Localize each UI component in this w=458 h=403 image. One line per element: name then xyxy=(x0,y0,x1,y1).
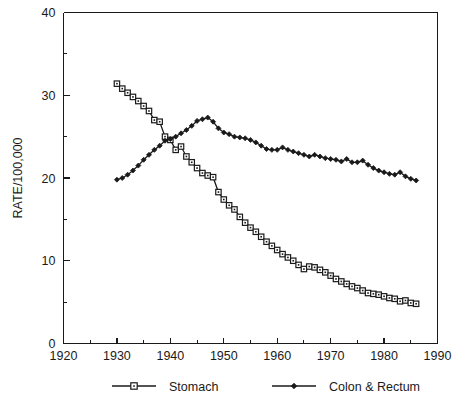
data-point-marker-open-square xyxy=(339,279,344,284)
data-point-marker-open-square xyxy=(323,270,328,275)
data-point-marker-open-square xyxy=(296,262,301,267)
data-point-marker-open-square xyxy=(189,160,194,165)
data-point-marker-open-square xyxy=(371,291,376,296)
data-point-marker-open-square xyxy=(408,300,413,305)
legend-label: Colon & Rectum xyxy=(329,380,420,394)
data-point-marker-open-square xyxy=(365,290,370,295)
y-tick-label: 0 xyxy=(49,337,56,351)
x-tick-label: 1950 xyxy=(210,349,238,363)
data-point-marker-open-square xyxy=(130,94,135,99)
data-point-marker-open-square xyxy=(131,383,137,389)
data-point-marker-open-square xyxy=(349,284,354,289)
data-point-marker-open-square xyxy=(120,86,125,91)
data-point-marker-open-square xyxy=(205,173,210,178)
data-point-marker-open-square xyxy=(312,265,317,270)
x-tick-label: 1970 xyxy=(317,349,345,363)
data-point-marker-open-square xyxy=(210,174,215,179)
data-point-marker-open-square xyxy=(317,267,322,272)
data-point-marker-open-square xyxy=(376,292,381,297)
data-point-marker-open-square xyxy=(194,165,199,170)
data-point-marker-open-square xyxy=(242,220,247,225)
data-point-marker-open-square xyxy=(226,203,231,208)
data-point-marker-open-square xyxy=(360,288,365,293)
x-tick-label: 1940 xyxy=(156,349,184,363)
data-point-marker-open-square xyxy=(344,281,349,286)
data-point-marker-open-square xyxy=(184,154,189,159)
x-tick-label: 1990 xyxy=(424,349,452,363)
data-point-marker-open-square xyxy=(178,144,183,149)
data-point-marker-open-square xyxy=(291,258,296,263)
data-point-marker-open-square xyxy=(152,117,157,122)
line-chart: 19201930194019501960197019801990 0102030… xyxy=(0,0,458,403)
data-point-marker-open-square xyxy=(381,294,386,299)
data-point-marker-open-square xyxy=(333,276,338,281)
data-point-marker-open-square xyxy=(264,239,269,244)
data-point-marker-open-square xyxy=(146,108,151,113)
chart-background xyxy=(0,0,458,403)
y-tick-label: 30 xyxy=(42,89,56,103)
data-point-marker-open-square xyxy=(269,243,274,248)
data-point-marker-open-square xyxy=(136,98,141,103)
data-point-marker-open-square xyxy=(157,119,162,124)
y-tick-label: 40 xyxy=(42,6,56,20)
x-tick-label: 1960 xyxy=(263,349,291,363)
data-point-marker-open-square xyxy=(200,170,205,175)
data-point-marker-open-square xyxy=(253,229,258,234)
data-point-marker-open-square xyxy=(307,264,312,269)
data-point-marker-open-square xyxy=(221,197,226,202)
data-point-marker-open-square xyxy=(248,225,253,230)
data-point-marker-open-square xyxy=(237,214,242,219)
data-point-marker-open-square xyxy=(285,255,290,260)
data-point-marker-open-square xyxy=(216,189,221,194)
data-point-marker-open-square xyxy=(413,301,418,306)
data-point-marker-open-square xyxy=(232,207,237,212)
data-point-marker-open-square xyxy=(125,90,130,95)
data-point-marker-open-square xyxy=(403,298,408,303)
data-point-marker-open-square xyxy=(141,103,146,108)
data-point-marker-open-square xyxy=(328,273,333,278)
y-tick-label: 20 xyxy=(42,172,56,186)
data-point-marker-open-square xyxy=(397,299,402,304)
y-axis-title: RATE/100,000 xyxy=(11,137,25,218)
data-point-marker-open-square xyxy=(387,295,392,300)
data-point-marker-open-square xyxy=(355,285,360,290)
data-point-marker-open-square xyxy=(258,234,263,239)
data-point-marker-open-square xyxy=(173,147,178,152)
x-tick-label: 1980 xyxy=(370,349,398,363)
data-point-marker-open-square xyxy=(275,247,280,252)
data-point-marker-open-square xyxy=(114,81,119,86)
data-point-marker-open-square xyxy=(392,296,397,301)
data-point-marker-open-square xyxy=(301,266,306,271)
x-tick-label: 1930 xyxy=(103,349,131,363)
data-point-marker-open-square xyxy=(280,251,285,256)
y-tick-label: 10 xyxy=(42,254,56,268)
chart-figure: 19201930194019501960197019801990 0102030… xyxy=(0,0,458,403)
legend-label: Stomach xyxy=(169,380,218,394)
